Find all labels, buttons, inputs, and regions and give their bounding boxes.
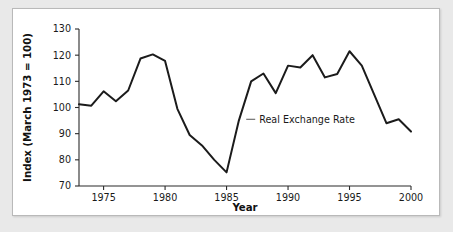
y-tick-label: 90 bbox=[59, 128, 71, 139]
annotation-group: Real Exchange Rate bbox=[246, 114, 355, 125]
y-tick-label: 110 bbox=[53, 76, 71, 87]
x-tick-label: 1980 bbox=[153, 192, 177, 203]
y-tick-label: 120 bbox=[53, 50, 71, 61]
y-tick-label: 130 bbox=[53, 23, 71, 34]
x-axis: 197519801985199019952000 Year bbox=[79, 186, 423, 213]
series-group bbox=[79, 51, 411, 172]
x-tick-label: 1995 bbox=[337, 192, 361, 203]
annotation-label: Real Exchange Rate bbox=[259, 114, 355, 125]
y-tick-label: 100 bbox=[53, 102, 71, 113]
y-axis-title: Index (March 1973 = 100) bbox=[22, 33, 33, 182]
y-tick-label: 70 bbox=[59, 180, 71, 191]
series-line-real-exchange-rate bbox=[79, 51, 411, 172]
x-tick-label: 1990 bbox=[276, 192, 300, 203]
x-tick-label: 2000 bbox=[399, 192, 423, 203]
y-tick-label: 80 bbox=[59, 154, 71, 165]
y-tick-group: 708090100110120130 bbox=[53, 23, 79, 191]
x-axis-title: Year bbox=[231, 202, 257, 213]
x-tick-group: 197519801985199019952000 bbox=[91, 186, 423, 203]
line-chart: 708090100110120130 Index (March 1973 = 1… bbox=[13, 9, 441, 217]
figure-panel: 708090100110120130 Index (March 1973 = 1… bbox=[12, 8, 440, 216]
x-tick-label: 1975 bbox=[91, 192, 115, 203]
y-axis: 708090100110120130 Index (March 1973 = 1… bbox=[22, 23, 79, 191]
